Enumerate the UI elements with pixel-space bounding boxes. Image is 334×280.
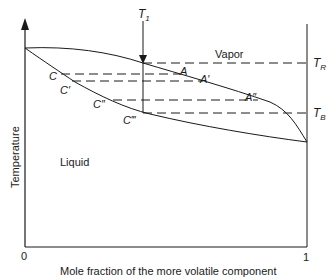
point-a: A xyxy=(179,65,187,77)
point-c2: C″ xyxy=(93,98,106,110)
vapor-label: Vapor xyxy=(215,48,244,60)
liquid-label: Liquid xyxy=(60,156,89,168)
x-tick-1: 1 xyxy=(303,251,309,263)
x-axis-label: Mole fraction of the more volatile compo… xyxy=(60,265,276,277)
point-c: C xyxy=(49,70,57,82)
point-a1: A′ xyxy=(199,73,210,85)
point-c1: C′ xyxy=(60,84,71,96)
tr-label: TR xyxy=(313,56,326,72)
y-axis-label: Temperature xyxy=(9,126,21,188)
x-tick-0: 0 xyxy=(21,250,27,262)
point-c3: C‴ xyxy=(123,114,136,126)
phase-diagram: T1 TR TB Vapor Liquid C C′ C″ C‴ A A′ A″… xyxy=(0,0,334,280)
tb-label: TB xyxy=(313,106,326,122)
y-axis-arrow-icon xyxy=(21,18,29,30)
t1-label: T1 xyxy=(138,7,150,23)
point-a2: A″ xyxy=(244,91,257,103)
